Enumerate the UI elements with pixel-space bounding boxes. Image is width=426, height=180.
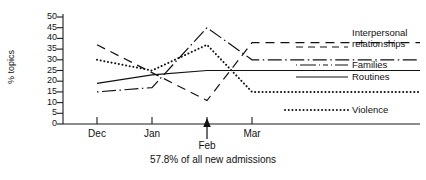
legend-item-interpersonal: Interpersonal relationships <box>352 27 407 49</box>
legend-item-routines: Routines <box>352 71 390 82</box>
y-axis-ticks <box>57 17 63 124</box>
y-tick-label: 25 <box>25 65 57 75</box>
x-axis-ticks <box>97 117 252 124</box>
legend-label-routines: Routines <box>352 71 390 82</box>
y-tick-label: 0 <box>25 118 57 128</box>
x-tick-label: Jan <box>132 128 172 139</box>
legend-label-families: Families <box>352 59 387 70</box>
chart-caption: 57.8% of all new admissions <box>0 154 426 165</box>
y-tick-label: 20 <box>25 75 57 85</box>
y-tick-label: 30 <box>25 54 57 64</box>
x-tick-label: Dec <box>77 128 117 139</box>
y-tick-label: 10 <box>25 97 57 107</box>
legend-sample-lines <box>285 47 348 110</box>
y-tick-label: 15 <box>25 86 57 96</box>
y-tick-label: 40 <box>25 32 57 42</box>
legend-item-families: Families <box>352 59 387 70</box>
legend-label-interpersonal-line2: relationships <box>352 38 407 49</box>
y-tick-label: 45 <box>25 22 57 32</box>
legend-label-interpersonal-line1: Interpersonal <box>352 27 407 38</box>
legend-item-violence: Violence <box>352 104 388 115</box>
y-tick-label: 5 <box>25 107 57 117</box>
chart-figure: % topics 05101520253035404550 DecJanFebM… <box>0 0 426 180</box>
y-tick-label: 50 <box>25 11 57 21</box>
legend-label-violence: Violence <box>352 104 388 115</box>
x-tick-label: Feb <box>187 140 227 151</box>
y-axis-label: % topics <box>6 32 16 102</box>
x-tick-label: Mar <box>232 128 272 139</box>
y-tick-label: 35 <box>25 43 57 53</box>
caption-text: 57.8% of all new admissions <box>150 154 276 165</box>
feb-arrow-marker <box>203 118 211 139</box>
